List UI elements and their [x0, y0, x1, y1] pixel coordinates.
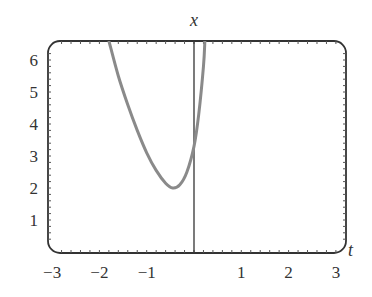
y-axis-variable-label: x	[189, 10, 198, 30]
y-tick-label: 3	[30, 147, 39, 166]
y-tick-label: 5	[30, 83, 39, 102]
y-tick-labels: 123456	[30, 51, 39, 230]
y-tick-label: 1	[30, 211, 39, 230]
chart-canvas: −3−2−1123 123456 x t	[0, 0, 372, 297]
x-tick-label: −3	[43, 263, 61, 282]
solution-curve	[109, 41, 205, 188]
frame-ticks	[48, 41, 346, 253]
x-axis-variable-label: t	[348, 240, 354, 260]
x-tick-label: 3	[332, 263, 341, 282]
plot-frame	[48, 41, 346, 253]
y-tick-label: 6	[30, 51, 39, 70]
x-tick-label: −1	[138, 263, 156, 282]
x-tick-label: 2	[284, 263, 293, 282]
x-tick-label: −2	[90, 263, 108, 282]
x-tick-labels: −3−2−1123	[43, 263, 340, 282]
x-tick-label: 1	[237, 263, 246, 282]
y-tick-label: 4	[30, 115, 39, 134]
y-tick-label: 2	[30, 179, 39, 198]
